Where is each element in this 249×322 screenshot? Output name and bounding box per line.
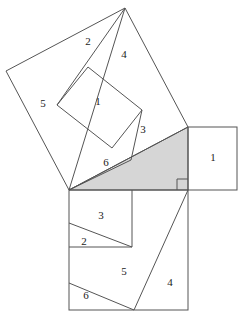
piece-label-1-right: 1	[210, 151, 216, 163]
piece-label-3-bottom: 3	[98, 209, 104, 221]
piece-label-2-bottom: 2	[81, 235, 87, 247]
piece-label-6-upper: 6	[103, 156, 109, 168]
cut-apex-to-inner-left	[57, 8, 125, 105]
piece-label-5-upper: 5	[40, 97, 46, 109]
cut-bottom-piece-5-edge	[134, 190, 188, 310]
pythagorean-dissection-diagram: 2 4 5 1 3 6 1 3 2 5 4 6	[0, 0, 249, 322]
inner-tilted-square-piece-1	[57, 67, 142, 148]
piece-label-4-upper: 4	[121, 48, 127, 60]
piece-label-3-upper: 3	[140, 123, 146, 135]
piece-label-2-upper: 2	[85, 35, 91, 47]
piece-label-6-bottom: 6	[83, 289, 89, 301]
piece-label-5-bottom: 5	[121, 265, 127, 277]
cut-bottom-piece-6-diagonal	[69, 283, 134, 310]
cut-bottom-piece-2-diagonal	[69, 223, 132, 247]
piece-label-1-upper: 1	[95, 95, 101, 107]
piece-label-4-bottom: 4	[167, 276, 173, 288]
figure-container: 2 4 5 1 3 6 1 3 2 5 4 6	[0, 0, 249, 322]
